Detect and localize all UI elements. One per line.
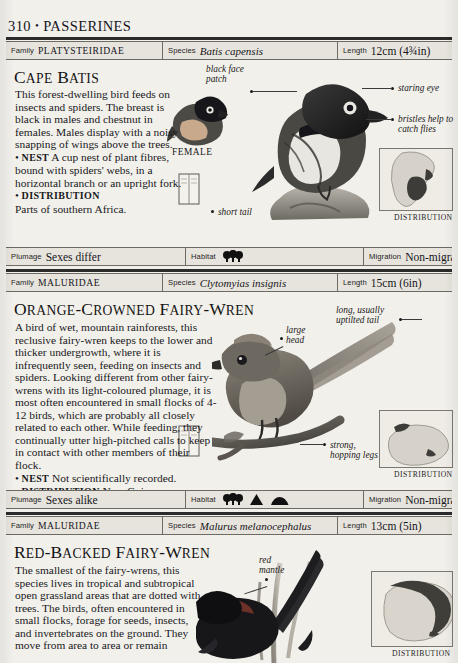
bullet-icon: • <box>15 151 22 163</box>
entry-2-header-bar: Family MALURIDAE Species Clytomyias insi… <box>6 273 452 292</box>
entry-1-family-cell: Family PLATYSTEIRIDAE <box>6 42 162 59</box>
entry-1-family-value: PLATYSTEIRIDAE <box>38 45 124 56</box>
entry-1-leader-2 <box>362 88 392 89</box>
entry-2-distribution-map <box>379 410 453 468</box>
bullet-icon: • <box>15 472 22 484</box>
entry-3-family-cell: Family MALURIDAE <box>6 517 162 534</box>
entry-2-nest-text: Not scientifically recorded. <box>52 472 176 484</box>
entry-2-description: A bird of wet, mountain rainforests, thi… <box>15 321 217 472</box>
entry-2-species-cell: Species Clytomyias insignis <box>162 274 337 291</box>
entry-2-species-value: Clytomyias insignis <box>200 277 286 289</box>
entry-2-nest-paragraph: • Nest Not scientifically recorded. <box>15 472 217 486</box>
entry-3-length-value: 13cm (5in) <box>371 520 422 532</box>
entry-1-distribution-text: Parts of southern Africa. <box>15 203 126 215</box>
habitat-label: Habitat <box>191 495 216 504</box>
entry-1-body-text: This forest-dwelling bird feeds on insec… <box>15 88 183 215</box>
entry-2-length-value: 15cm (6in) <box>371 277 422 289</box>
entry-1-leader-1 <box>253 91 297 92</box>
plumage-label: Plumage <box>11 252 42 261</box>
entry-1-top-rule <box>6 37 452 40</box>
migration-label: Migration <box>369 252 401 261</box>
book-page: 310•PASSERINES Family PLATYSTEIRIDAE Spe… <box>0 0 458 663</box>
running-head: 310•PASSERINES <box>8 18 131 35</box>
entry-1-length-value: 12cm (4¾in) <box>371 45 430 57</box>
entry-1-male-photo <box>246 58 396 223</box>
family-label: Family <box>11 278 34 287</box>
entry-2-plumage-cell: Plumage Sexes alike <box>6 491 185 508</box>
entry-2-annotation-large-head: large head <box>286 325 322 346</box>
entry-2-body-text: A bird of wet, mountain rainforests, thi… <box>15 321 217 499</box>
length-label: Length <box>343 278 367 287</box>
entry-2-family-value: MALURIDAE <box>38 277 100 288</box>
entry-1-nest-paragraph: • Nest A cup nest of plant fibres, bound… <box>15 151 183 190</box>
species-label: Species <box>168 46 196 55</box>
entry-1-distribution-map <box>379 148 453 211</box>
entry-1-description: This forest-dwelling bird feeds on insec… <box>15 88 183 151</box>
entry-2-leader-3 <box>300 444 324 445</box>
entry-2-annotation-dot-2 <box>280 337 283 340</box>
entry-1-common-name-text: CAPE BATIS <box>14 67 99 87</box>
entry-1-distribution-caption: DISTRIBUTION <box>394 213 453 222</box>
bullet-icon: • <box>15 189 22 201</box>
family-label: Family <box>11 521 34 530</box>
page-number: 310 <box>8 18 31 34</box>
forest-icon <box>223 493 243 506</box>
entry-3-common-name: RED-BACKED FAIRY-WREN <box>14 542 210 563</box>
entry-3-body-text: The smallest of the fairy-wrens, this sp… <box>15 564 201 652</box>
entry-1-habitat-icons <box>223 250 243 263</box>
entry-2-footer-bar: Plumage Sexes alike Habitat Migration No… <box>6 490 452 509</box>
hill-icon <box>270 496 289 506</box>
length-label: Length <box>343 46 367 55</box>
habitat-label: Habitat <box>191 252 216 261</box>
entry-1-species-value: Batis capensis <box>200 45 263 57</box>
entry-2-migration-value: Non-migrant <box>405 494 452 506</box>
entry-1-length-cell: Length 12cm (4¾in) <box>337 42 452 59</box>
entry-3-description: The smallest of the fairy-wrens, this sp… <box>15 564 201 652</box>
forest-icon <box>223 250 243 263</box>
entry-3-family-value: MALURIDAE <box>38 520 100 531</box>
entry-1-migration-value: Non-migrant <box>405 251 452 263</box>
entry-1-annotation-staring-eye: staring eye <box>398 83 456 93</box>
entry-3-length-cell: Length 13cm (5in) <box>337 517 452 534</box>
plumage-label: Plumage <box>11 495 42 504</box>
entry-1-species-cell: Species Batis capensis <box>162 42 337 59</box>
entry-2-family-cell: Family MALURIDAE <box>6 274 162 291</box>
entry-1-plumage-cell: Plumage Sexes differ <box>6 248 185 265</box>
entry-1-migration-cell: Migration Non-migrant <box>363 248 452 265</box>
entry-2-annotation-uptilted-tail: long, usually uptilted tail <box>336 305 396 326</box>
entry-3-species-value: Malurus melanocephalus <box>200 520 312 532</box>
entry-2-common-name-text: ORANGE-CROWNED FAIRY-WREN <box>14 300 254 319</box>
entry-2-plumage-value: Sexes alike <box>46 494 98 506</box>
species-label: Species <box>168 521 196 530</box>
entry-2-leader-1 <box>402 319 422 320</box>
entry-3-header-bar: Family MALURIDAE Species Malurus melanoc… <box>6 516 452 535</box>
entry-2-top-rule <box>6 269 452 272</box>
entry-3-distribution-map <box>371 571 453 647</box>
entry-2-migration-cell: Migration Non-migrant <box>363 491 452 508</box>
entry-1-annotation-short-tail: short tail <box>218 207 254 217</box>
entry-1-distribution-paragraph: • Distribution Parts of southern Africa. <box>15 189 183 215</box>
entry-2-habitat-icons <box>223 493 289 506</box>
entry-2-common-name: ORANGE-CROWNED FAIRY-WREN <box>14 299 254 320</box>
entry-1-annotation-black-face-patch: black face patch <box>206 64 246 85</box>
entry-1-footer-bar: Plumage Sexes differ Habitat Migration N… <box>6 247 452 266</box>
entry-3-distribution-caption: DISTRIBUTION <box>392 649 451 658</box>
entry-3-species-cell: Species Malurus melanocephalus <box>162 517 337 534</box>
entry-2-nest-keyword: Nest <box>22 473 50 484</box>
entry-1-annotation-dot-4 <box>211 210 214 213</box>
entry-1-nest-keyword: Nest <box>22 152 50 163</box>
entry-3-top-rule <box>6 512 452 515</box>
entry-1-distribution-keyword: Distribution <box>22 190 100 201</box>
entry-3-common-name-text: RED-BACKED FAIRY-WREN <box>14 543 210 562</box>
family-label: Family <box>11 46 34 55</box>
entry-2-length-cell: Length 15cm (6in) <box>337 274 452 291</box>
species-label: Species <box>168 278 196 287</box>
entry-2-annotation-hopping-legs: strong, hopping legs <box>330 440 378 461</box>
entry-1-annotation-bristles: bristles help to catch flies <box>398 114 456 135</box>
entry-3-annotation-red-mantle: red mantle <box>259 555 293 576</box>
section-title: PASSERINES <box>43 18 131 34</box>
migration-label: Migration <box>369 495 401 504</box>
mountain-icon <box>249 493 264 506</box>
entry-1-common-name: CAPE BATIS <box>14 67 99 88</box>
entry-1-plumage-value: Sexes differ <box>46 251 101 263</box>
